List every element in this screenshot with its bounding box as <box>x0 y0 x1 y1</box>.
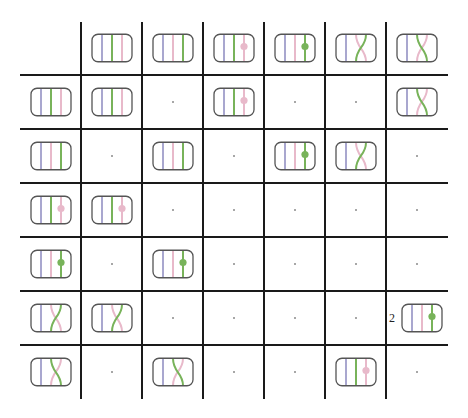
empty-cell-dot <box>172 317 174 319</box>
braid-tile-crossing-green-up-icon <box>335 34 377 63</box>
row-header-3 <box>20 183 81 237</box>
table-cell <box>264 129 325 183</box>
empty-cell-dot <box>294 263 296 265</box>
empty-cell-dot <box>172 209 174 211</box>
table-cell <box>81 183 142 237</box>
empty-cell-dot <box>294 317 296 319</box>
braid-tile-identity-blue-green-pink-icon <box>91 88 133 117</box>
empty-cell-dot <box>233 209 235 211</box>
empty-cell-dot <box>233 263 235 265</box>
braid-tile-identity-blue-green-pink-icon <box>30 88 72 117</box>
grid-column-divider <box>141 22 143 399</box>
table-cell <box>386 237 447 291</box>
braid-tile-blue-pink-green-green-dot-icon <box>401 304 443 333</box>
empty-cell-dot <box>111 263 113 265</box>
braid-tile-crossing-green-up-icon <box>91 304 133 333</box>
table-cell: 2 <box>386 291 447 345</box>
empty-cell-dot <box>111 155 113 157</box>
braid-tile-crossing-green-down-icon <box>152 358 194 387</box>
braid-tile-blue-green-pink-pink-dot-icon <box>335 358 377 387</box>
braid-tile-blue-green-pink-pink-dot-icon <box>30 196 72 225</box>
grid-row-divider <box>20 74 448 76</box>
table-cell <box>325 345 386 399</box>
braid-tile-blue-pink-green-green-dot-icon <box>274 34 316 63</box>
table-cell <box>142 129 203 183</box>
column-header-4 <box>264 21 325 75</box>
braid-tile-identity-blue-pink-green-icon <box>30 142 72 171</box>
table-cell <box>81 129 142 183</box>
table-cell <box>203 237 264 291</box>
grid-column-divider <box>202 22 204 399</box>
braid-tile-crossing-green-up-icon <box>335 142 377 171</box>
braid-tile-identity-blue-pink-green-icon <box>152 142 194 171</box>
table-cell <box>264 183 325 237</box>
grid-row-divider <box>20 128 448 130</box>
grid-row-divider <box>20 236 448 238</box>
table-cell <box>142 75 203 129</box>
empty-cell-dot <box>355 263 357 265</box>
empty-cell-dot <box>416 371 418 373</box>
empty-cell-dot <box>416 209 418 211</box>
column-header-5 <box>325 21 386 75</box>
empty-cell-dot <box>355 209 357 211</box>
empty-cell-dot <box>294 209 296 211</box>
empty-cell-dot <box>111 371 113 373</box>
table-cell <box>386 129 447 183</box>
braid-tile-identity-blue-pink-green-icon <box>152 34 194 63</box>
table-cell <box>203 291 264 345</box>
table-cell <box>264 345 325 399</box>
empty-cell-dot <box>294 101 296 103</box>
table-cell <box>142 291 203 345</box>
table-cell <box>203 129 264 183</box>
empty-cell-dot <box>172 101 174 103</box>
braid-tile-blue-pink-green-green-dot-icon <box>152 250 194 279</box>
braid-tile-blue-green-pink-pink-dot-icon <box>213 34 255 63</box>
table-cell <box>386 75 447 129</box>
grid-column-divider <box>80 22 82 399</box>
empty-cell-dot <box>416 263 418 265</box>
table-cell <box>142 345 203 399</box>
braid-tile-blue-green-pink-pink-dot-icon <box>213 88 255 117</box>
table-cell <box>325 237 386 291</box>
grid-column-divider <box>324 22 326 399</box>
table-cell <box>386 345 447 399</box>
column-header-3 <box>203 21 264 75</box>
table-cell <box>142 183 203 237</box>
grid-row-divider <box>20 290 448 292</box>
table-cell <box>81 237 142 291</box>
grid-row-divider <box>20 182 448 184</box>
braid-tile-crossing-green-down-icon <box>396 88 438 117</box>
coefficient-label: 2 <box>389 311 395 326</box>
braid-tile-blue-pink-green-green-dot-icon <box>274 142 316 171</box>
row-header-6 <box>20 345 81 399</box>
grid-column-divider <box>385 22 387 399</box>
empty-cell-dot <box>355 317 357 319</box>
table-cell <box>325 129 386 183</box>
empty-cell-dot <box>233 317 235 319</box>
table-cell <box>386 183 447 237</box>
table-cell <box>325 75 386 129</box>
empty-cell-dot <box>416 155 418 157</box>
row-header-2 <box>20 129 81 183</box>
grid-column-divider <box>263 22 265 399</box>
table-cell <box>264 237 325 291</box>
table-cell <box>81 291 142 345</box>
table-cell <box>203 75 264 129</box>
braid-tile-crossing-green-down-icon <box>30 358 72 387</box>
empty-cell-dot <box>233 155 235 157</box>
empty-cell-dot <box>294 371 296 373</box>
braid-tile-identity-blue-green-pink-icon <box>91 34 133 63</box>
multiplication-table: 2 <box>0 0 468 418</box>
grid-row-divider <box>20 344 448 346</box>
column-header-2 <box>142 21 203 75</box>
braid-tile-blue-pink-green-green-dot-icon <box>30 250 72 279</box>
empty-cell-dot <box>355 101 357 103</box>
table-cell <box>325 291 386 345</box>
column-header-6 <box>386 21 447 75</box>
row-header-5 <box>20 291 81 345</box>
table-cell <box>325 183 386 237</box>
braid-tile-crossing-green-up-icon <box>30 304 72 333</box>
table-cell <box>142 237 203 291</box>
table-cell <box>81 75 142 129</box>
table-cell <box>81 345 142 399</box>
